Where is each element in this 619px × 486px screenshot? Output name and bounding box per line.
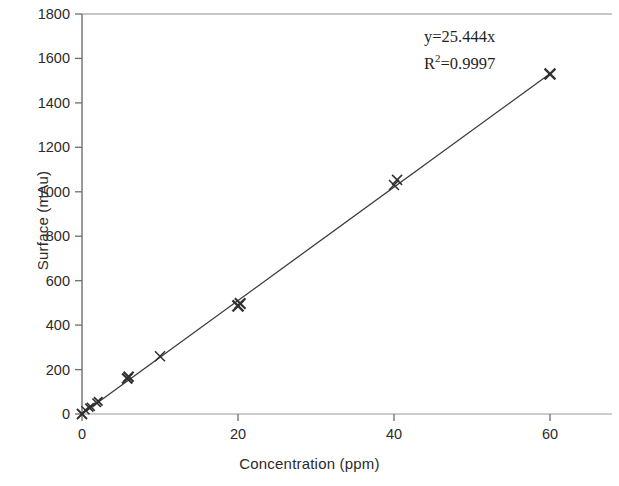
y-tick-label-1800: 1800 — [22, 6, 70, 22]
data-point — [545, 69, 556, 80]
x-axis-title: Concentration (ppm) — [0, 455, 619, 472]
x-tick-label-60: 60 — [542, 426, 558, 442]
trend-line — [82, 74, 550, 414]
r-squared-label: R2=0.9997 — [424, 52, 495, 74]
calibration-curve-chart: 0 200 400 600 800 1000 1200 1400 1600 18… — [0, 0, 619, 486]
r-squared-suffix: =0.9997 — [441, 54, 496, 73]
r-squared-prefix: R — [424, 54, 435, 73]
trendline-equation-label: y=25.444x — [424, 27, 495, 47]
data-point — [392, 175, 402, 185]
x-tick-label-40: 40 — [386, 426, 402, 442]
y-tick-label-1600: 1600 — [22, 50, 70, 66]
x-tick-label-0: 0 — [78, 426, 86, 442]
y-tick-label-200: 200 — [28, 362, 70, 378]
y-axis-title: Surface (mAu) — [34, 101, 51, 341]
y-tick-label-0: 0 — [28, 406, 70, 422]
plot-area — [0, 0, 619, 486]
data-point — [155, 351, 165, 361]
x-axis-ticks — [82, 414, 550, 421]
x-tick-label-20: 20 — [230, 426, 246, 442]
y-axis-ticks — [75, 14, 82, 414]
